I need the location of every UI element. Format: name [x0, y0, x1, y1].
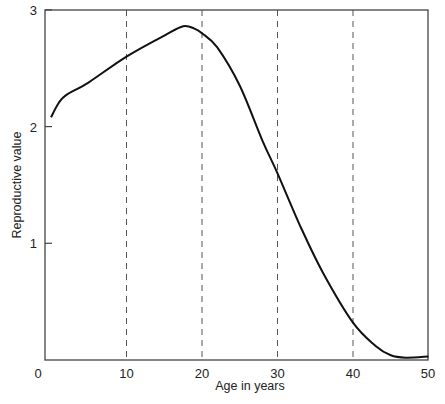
reproductive-value-curve: [51, 26, 429, 358]
vertical-gridlines: [127, 10, 354, 360]
y-tick-label: 3: [30, 3, 37, 18]
y-axis-label: Reproductive value: [10, 131, 24, 238]
x-tick-label: 20: [195, 366, 209, 381]
reproductive-value-chart: 123 01020304050 Age in years Reproductiv…: [0, 0, 445, 404]
y-tick-label: 1: [30, 236, 37, 251]
plot-frame: [45, 10, 428, 360]
x-axis-label: Age in years: [215, 379, 284, 393]
x-tick-label: 10: [119, 366, 133, 381]
x-tick-label: 0: [34, 366, 41, 381]
y-axis-ticks: 123: [30, 3, 52, 251]
x-tick-label: 40: [346, 366, 360, 381]
y-tick-label: 2: [30, 120, 37, 135]
x-tick-label: 50: [421, 366, 435, 381]
